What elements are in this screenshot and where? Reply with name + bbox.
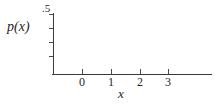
x-axis-tick-3 (168, 69, 169, 73)
chart-figure: 0123 .5 p(x) x (0, 0, 215, 104)
y-axis-tick-1 (49, 28, 54, 29)
y-axis-title: p(x) (7, 19, 30, 35)
y-axis-tick-3 (49, 56, 54, 57)
x-axis-tick-label-0: 0 (72, 75, 92, 89)
y-axis-tick-0 (49, 14, 54, 15)
y-axis-line (53, 13, 54, 75)
x-axis-tick-label-3: 3 (158, 75, 178, 89)
x-axis-title: x (118, 86, 124, 101)
x-axis-tick-0 (82, 69, 83, 73)
x-axis-tick-label-2: 2 (130, 75, 150, 89)
x-axis-tick-2 (140, 69, 141, 73)
y-axis-max-tick-label: .5 (42, 2, 50, 14)
plot-area (54, 14, 212, 73)
x-axis-tick-1 (111, 69, 112, 73)
y-axis-tick-2 (49, 42, 54, 43)
